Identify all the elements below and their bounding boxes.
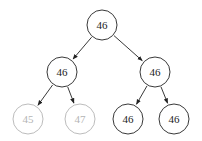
edge-arrow-right-to-right-right — [161, 87, 168, 103]
tree-node-right-left: 46 — [113, 104, 143, 134]
tree-node-root: 46 — [87, 10, 117, 40]
tree-node-left-left: 45 — [13, 104, 43, 134]
tree-node-right: 46 — [140, 57, 170, 87]
node-value: 45 — [23, 113, 35, 125]
node-value: 46 — [57, 66, 69, 78]
edge-arrow-root-to-left — [73, 37, 92, 59]
tree-node-left-right: 47 — [65, 104, 95, 134]
tree-node-left: 46 — [47, 57, 77, 87]
node-value: 46 — [123, 113, 135, 125]
tree-diagram: 46464645474646 — [0, 0, 202, 141]
node-value: 46 — [150, 66, 162, 78]
edge-arrow-right-to-right-left — [136, 86, 147, 104]
edge-arrow-left-to-left-right — [68, 87, 74, 103]
edge-arrow-root-to-right — [114, 36, 142, 61]
node-value: 46 — [97, 19, 109, 31]
edge-arrow-left-to-left-left — [38, 85, 53, 105]
tree-node-right-right: 46 — [159, 104, 189, 134]
nodes: 46464645474646 — [13, 10, 189, 134]
node-value: 46 — [169, 113, 181, 125]
tree-svg: 46464645474646 — [0, 0, 202, 141]
node-value: 47 — [75, 113, 87, 125]
